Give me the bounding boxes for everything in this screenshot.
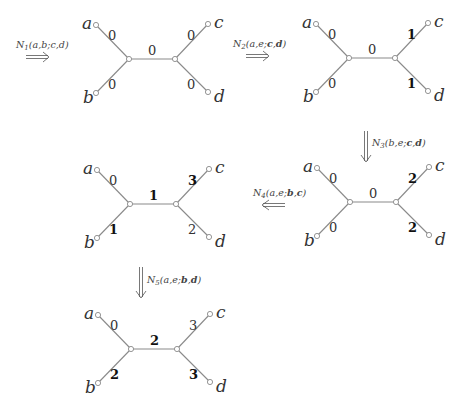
leaf-node-d <box>206 234 211 239</box>
tree-1: abcd00011 <box>302 11 445 106</box>
leaf-node-b <box>95 380 100 385</box>
operation-n4: N4(a,e;b,c) <box>252 187 307 210</box>
leaf-label-a: a <box>302 12 312 32</box>
leaf-node-c <box>205 21 210 26</box>
operation-n5: N5(a,e;b,d) <box>136 267 201 298</box>
double-arrow-right-icon <box>246 51 269 61</box>
internal-node-left <box>127 201 132 206</box>
weight-d: 1 <box>407 76 416 91</box>
weight-a: 0 <box>328 27 336 42</box>
leaf-node-a <box>95 312 100 317</box>
weight-c: 2 <box>408 171 417 186</box>
operation-n2: N2(a,e;c,d) <box>232 38 287 61</box>
weight-b: 0 <box>329 220 337 235</box>
leaf-label-b: b <box>85 377 96 397</box>
weight-a: 0 <box>329 171 337 186</box>
weight-c: 3 <box>188 173 197 188</box>
leaf-node-c <box>426 164 431 169</box>
double-arrow-left-icon <box>262 200 285 210</box>
leaf-label-d: d <box>434 85 445 105</box>
leaf-node-a <box>314 165 319 170</box>
leaf-label-c: c <box>216 302 226 322</box>
weight-d: 2 <box>408 220 417 235</box>
leaf-node-c <box>425 20 430 25</box>
leaf-node-c <box>207 311 212 316</box>
leaf-label-d: d <box>215 231 226 251</box>
tree-0: abcd00000 <box>82 12 225 107</box>
leaf-label-c: c <box>435 155 445 175</box>
tree-transformation-diagram: abcd00000abcd00011abcd00022abcd01132abcd… <box>0 0 457 402</box>
leaf-node-b <box>94 235 99 240</box>
internal-node-left <box>128 346 133 351</box>
n4-label: N4(a,e;b,c) <box>252 187 307 200</box>
leaf-node-a <box>93 22 98 27</box>
leaf-label-d: d <box>435 229 446 249</box>
operation-n1: N1(a,b;c,d) <box>15 39 69 62</box>
leaf-node-d <box>425 88 430 93</box>
leaf-node-a <box>313 21 318 26</box>
leaf-label-a: a <box>83 158 93 178</box>
leaf-node-d <box>426 232 431 237</box>
weight-d: 0 <box>187 77 195 92</box>
weight-a: 0 <box>109 173 117 188</box>
n3-label: N3(b,e;c,d) <box>371 137 426 150</box>
weight-center: 0 <box>368 42 376 57</box>
leaf-node-b <box>313 89 318 94</box>
tree-4: abcd02233 <box>84 302 227 397</box>
leaf-label-a: a <box>303 156 313 176</box>
weight-center: 2 <box>150 333 159 348</box>
leaf-label-b: b <box>304 230 315 250</box>
leaf-node-a <box>94 167 99 172</box>
leaf-label-d: d <box>216 376 227 396</box>
leaf-label-a: a <box>84 303 94 323</box>
weight-c: 1 <box>407 27 416 42</box>
leaf-node-b <box>93 90 98 95</box>
leaf-label-b: b <box>83 87 94 107</box>
internal-node-left <box>346 55 351 60</box>
leaf-node-b <box>314 233 319 238</box>
internal-node-right <box>393 199 398 204</box>
leaf-label-b: b <box>84 232 95 252</box>
weight-b: 2 <box>110 367 119 382</box>
internal-node-right <box>173 201 178 206</box>
tree-2: abcd00022 <box>303 155 446 250</box>
n1-label: N1(a,b;c,d) <box>15 39 69 52</box>
internal-node-right <box>174 346 179 351</box>
double-arrow-down-icon <box>361 131 371 162</box>
leaf-label-a: a <box>82 13 92 33</box>
n5-label: N5(a,e;b,d) <box>146 274 201 287</box>
weight-a: 0 <box>110 318 118 333</box>
weight-b: 0 <box>328 76 336 91</box>
weight-d: 2 <box>188 222 196 237</box>
double-arrow-right-icon <box>26 52 49 62</box>
n2-label: N2(a,e;c,d) <box>232 38 287 51</box>
leaf-node-c <box>206 166 211 171</box>
leaf-label-c: c <box>215 157 225 177</box>
weight-center: 0 <box>148 43 156 58</box>
weight-c: 3 <box>189 318 197 333</box>
double-arrow-down-icon <box>136 267 146 298</box>
leaf-label-b: b <box>303 86 314 106</box>
operation-n3: N3(b,e;c,d) <box>361 131 426 162</box>
internal-node-left <box>126 56 131 61</box>
leaf-label-c: c <box>434 11 444 31</box>
weight-b: 1 <box>109 222 118 237</box>
weight-b: 0 <box>108 77 116 92</box>
weight-center: 0 <box>369 186 377 201</box>
leaf-node-d <box>207 379 212 384</box>
leaf-node-d <box>205 89 210 94</box>
tree-3: abcd01132 <box>83 157 226 252</box>
leaf-label-d: d <box>214 86 225 106</box>
weight-d: 3 <box>189 367 198 382</box>
internal-node-right <box>172 56 177 61</box>
weight-a: 0 <box>108 28 116 43</box>
leaf-label-c: c <box>214 12 224 32</box>
weight-center: 1 <box>149 188 158 203</box>
weight-c: 0 <box>187 28 195 43</box>
internal-node-right <box>392 55 397 60</box>
internal-node-left <box>347 199 352 204</box>
